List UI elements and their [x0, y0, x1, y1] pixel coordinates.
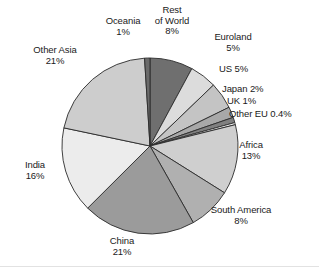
slice-label-oceania: Oceania 1%	[96, 16, 150, 37]
slice-label-euroland-value: 5%	[203, 43, 263, 54]
pie-chart-svg: Rest of World 8%Euroland 5%US 5%Japan 2%…	[0, 0, 319, 269]
slice-label-china-name: China	[99, 236, 145, 247]
slice-label-other-asia-name: Other Asia	[22, 45, 88, 56]
slice-label-south-america-value: 8%	[200, 216, 282, 227]
slice-label-euroland: Euroland 5%	[203, 32, 263, 53]
slice-label-china-value: 21%	[99, 247, 145, 258]
slice-label-euroland-name: Euroland	[203, 32, 263, 43]
slice-label-us-text: US 5%	[219, 64, 248, 75]
slice-label-japan-text: Japan 2%	[222, 84, 263, 95]
slice-label-other-asia-value: 21%	[22, 56, 88, 67]
slice-label-other-eu: Other EU 0.4%	[229, 109, 292, 120]
slice-label-south-america: South America 8%	[200, 205, 282, 226]
slice-label-africa-value: 13%	[228, 151, 274, 162]
slice-label-china: China 21%	[99, 236, 145, 257]
slice-label-india-name: India	[14, 160, 56, 171]
slice-label-rest-of-world: Rest of World 8%	[143, 5, 201, 37]
slice-label-africa: Africa 13%	[228, 140, 274, 161]
slice-label-japan: Japan 2%	[222, 84, 263, 95]
bottom-rule	[0, 266, 319, 267]
slice-label-rest-of-world-value: 8%	[143, 26, 201, 37]
slice-label-oceania-name: Oceania	[96, 16, 150, 27]
slice-label-other-eu-text: Other EU 0.4%	[229, 109, 292, 120]
slice-label-africa-name: Africa	[228, 140, 274, 151]
slice-label-uk-text: UK 1%	[227, 96, 256, 107]
slice-label-other-asia: Other Asia 21%	[22, 45, 88, 66]
slice-label-us: US 5%	[219, 64, 248, 75]
slice-label-south-america-name: South America	[200, 205, 282, 216]
slice-label-rest-of-world-name1: Rest	[143, 5, 201, 16]
slice-label-india: India 16%	[14, 160, 56, 181]
slice-label-india-value: 16%	[14, 171, 56, 182]
slice-label-uk: UK 1%	[227, 96, 256, 107]
pie-chart-figure: Rest of World 8%Euroland 5%US 5%Japan 2%…	[0, 0, 319, 269]
slice-label-oceania-value: 1%	[96, 27, 150, 38]
